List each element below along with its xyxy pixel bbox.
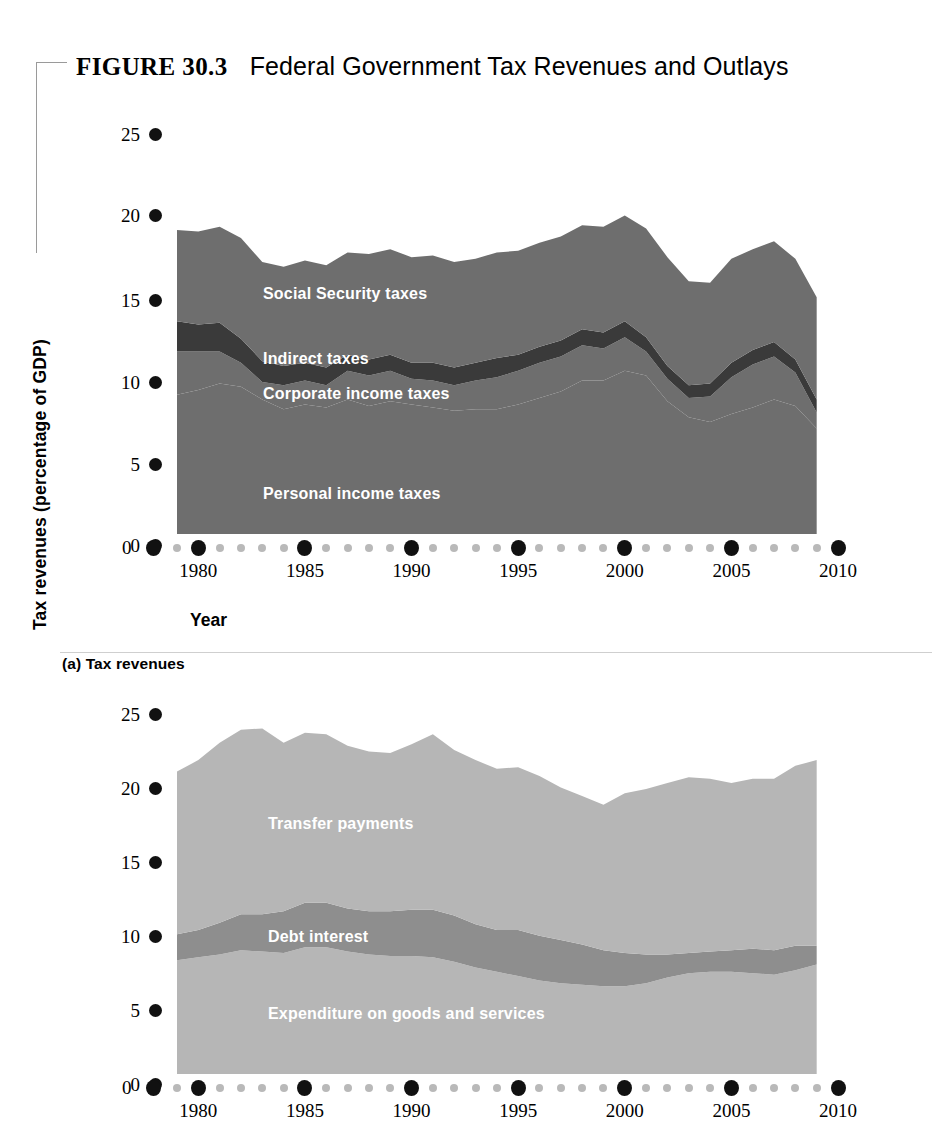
x-tick-major-2005 — [724, 540, 739, 556]
x-tick-minor-1986 — [322, 1084, 330, 1092]
y-tick-a-20-label: 20 — [121, 205, 140, 227]
x-axis-title-a: Year — [190, 610, 227, 631]
x-tick-label-2000: 2000 — [590, 1100, 660, 1122]
x-tick-label-1990: 1990 — [377, 560, 447, 582]
x-tick-minor-1999 — [599, 544, 607, 552]
x-tick-label-2000: 2000 — [590, 560, 660, 582]
x-tick-label-2005: 2005 — [696, 560, 766, 582]
series-label-expenditure-goods-services: Expenditure on goods and services — [268, 1005, 545, 1023]
y-tick-b-15-dot — [149, 856, 162, 869]
x-tick-minor-1996 — [535, 1084, 543, 1092]
x-tick-minor-2003 — [685, 1084, 693, 1092]
x-tick-minor-1981 — [216, 1084, 224, 1092]
series-label-social-security: Social Security taxes — [263, 285, 427, 303]
y-tick-b-20-dot — [149, 782, 162, 795]
panel-tax-revenues: Tax revenues (percentage of GDP) 25 20 1… — [0, 110, 947, 670]
y-tick-a-20: 20 — [66, 205, 166, 225]
x-tick-major-1980 — [191, 540, 206, 556]
x-axis-b-origin-label: 0 — [122, 1077, 132, 1099]
x-tick-minor-1979 — [173, 1084, 181, 1092]
x-tick-minor-1986 — [322, 544, 330, 552]
x-tick-minor-1993 — [472, 1084, 480, 1092]
y-tick-b-20: 20 — [66, 778, 166, 798]
x-axis-a-origin-label: 0 — [122, 537, 132, 559]
y-tick-b-5-label: 5 — [131, 1000, 141, 1022]
x-tick-minor-1997 — [557, 1084, 565, 1092]
x-tick-major-2000 — [617, 540, 632, 556]
panel-caption-a: (a) Tax revenues — [62, 655, 185, 673]
x-tick-major-2000 — [617, 1080, 632, 1096]
x-tick-major-1990 — [404, 1080, 419, 1096]
x-tick-label-1990: 1990 — [377, 1100, 447, 1122]
x-tick-minor-2008 — [791, 544, 799, 552]
y-tick-b-25-label: 25 — [121, 704, 140, 726]
x-tick-minor-2004 — [706, 1084, 714, 1092]
y-tick-a-10-dot — [149, 376, 162, 389]
x-tick-minor-2004 — [706, 544, 714, 552]
x-tick-minor-1987 — [344, 1084, 352, 1092]
series-label-personal-income-taxes: Personal income taxes — [263, 485, 441, 503]
y-tick-a-25: 25 — [66, 124, 166, 144]
y-tick-b-5: 5 — [66, 1000, 166, 1020]
x-tick-minor-1994 — [493, 1084, 501, 1092]
x-tick-minor-2001 — [642, 1084, 650, 1092]
figure-container: FIGURE 30.3Federal Government Tax Revenu… — [0, 0, 947, 1133]
x-tick-minor-1982 — [237, 544, 245, 552]
y-tick-a-15-dot — [149, 294, 162, 307]
y-tick-a-10: 10 — [66, 372, 166, 392]
y-tick-b-15-label: 15 — [121, 852, 140, 874]
x-tick-minor-1984 — [280, 544, 288, 552]
series-label-corporate-income-taxes: Corporate income taxes — [263, 385, 450, 403]
series-label-debt-interest: Debt interest — [268, 928, 368, 946]
y-tick-a-25-label: 25 — [121, 124, 140, 146]
figure-number: FIGURE 30.3 — [76, 53, 228, 80]
x-tick-minor-1987 — [344, 544, 352, 552]
x-tick-minor-2006 — [749, 544, 757, 552]
x-tick-minor-1981 — [216, 544, 224, 552]
series-label-transfer-payments: Transfer payments — [268, 815, 414, 833]
y-tick-b-10-dot — [149, 930, 162, 943]
x-tick-minor-1983 — [258, 1084, 266, 1092]
x-axis-a-origin-dot — [146, 540, 161, 556]
y-tick-b-15: 15 — [66, 852, 166, 872]
x-tick-major-1990 — [404, 540, 419, 556]
x-axis-b-origin-dot — [146, 1080, 161, 1096]
x-tick-minor-1998 — [578, 1084, 586, 1092]
x-tick-minor-1996 — [535, 544, 543, 552]
y-tick-a-5: 5 — [66, 454, 166, 474]
x-tick-major-2010 — [831, 1080, 846, 1096]
y-tick-b-25-dot — [149, 708, 162, 721]
x-tick-minor-2008 — [791, 1084, 799, 1092]
y-tick-a-10-label: 10 — [121, 372, 140, 394]
x-tick-major-2010 — [831, 540, 846, 556]
x-tick-label-1980: 1980 — [163, 1100, 233, 1122]
y-tick-a-5-label: 5 — [131, 454, 141, 476]
x-tick-minor-1994 — [493, 544, 501, 552]
y-tick-a-5-dot — [149, 458, 162, 471]
y-tick-b-25: 25 — [66, 704, 166, 724]
x-tick-minor-2001 — [642, 544, 650, 552]
tax-revenues-stacked-area — [177, 134, 838, 534]
x-tick-minor-1992 — [450, 1084, 458, 1092]
x-tick-label-1985: 1985 — [270, 560, 340, 582]
x-tick-minor-1989 — [386, 1084, 394, 1092]
x-tick-minor-2009 — [813, 544, 821, 552]
panel-outlays: Outlays (percentage of GDP) 25 20 15 10 … — [0, 680, 947, 1133]
x-tick-minor-1984 — [280, 1084, 288, 1092]
x-tick-minor-2002 — [663, 544, 671, 552]
x-tick-label-1995: 1995 — [483, 1100, 553, 1122]
x-tick-minor-1993 — [472, 544, 480, 552]
x-tick-minor-2009 — [813, 1084, 821, 1092]
x-tick-minor-1992 — [450, 544, 458, 552]
y-tick-b-10-label: 10 — [121, 926, 140, 948]
x-tick-minor-1991 — [429, 544, 437, 552]
x-tick-minor-2007 — [770, 544, 778, 552]
y-tick-b-5-dot — [149, 1004, 162, 1017]
x-tick-minor-1983 — [258, 544, 266, 552]
x-tick-minor-2007 — [770, 1084, 778, 1092]
x-tick-minor-1998 — [578, 544, 586, 552]
x-tick-minor-1999 — [599, 1084, 607, 1092]
x-tick-major-1985 — [297, 540, 312, 556]
y-tick-a-25-dot — [149, 128, 162, 141]
y-tick-a-20-dot — [149, 209, 162, 222]
